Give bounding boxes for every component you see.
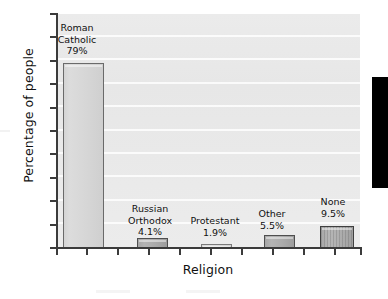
bar-label-line1: None [310,196,356,208]
x-tick-8 [272,249,274,255]
x-tick-7 [241,249,243,255]
y-tick-40 [50,153,56,155]
x-axis-title: Religion [56,262,360,277]
bar-label-line2: Orthodox [116,215,184,227]
bar-highlight [139,240,166,242]
bar-chart-figure: 100 90 80 70 60 50 40 30 20 10 0 Roman C… [0,0,388,299]
bar-none[interactable] [320,226,354,248]
bar-highlight [266,237,293,239]
bar-label-none: None 9.5% [310,196,356,219]
x-tick-9 [303,249,305,255]
bar-label-value: 9.5% [310,208,356,220]
scan-artifact-right [186,290,220,293]
scan-artifact-left [96,290,130,293]
bar-label-other: Other 5.5% [248,208,296,231]
y-tick-80 [50,60,56,62]
y-tick-30 [50,177,56,179]
x-tick-10 [334,249,336,255]
black-block-artifact [372,77,388,188]
y-tick-60 [50,107,56,109]
bar-label-protestant: Protestant 1.9% [182,215,248,238]
bar-roman-catholic[interactable] [63,63,104,248]
bar-label-line1: Other [248,208,296,220]
bar-label-roman-catholic: Roman Catholic 79% [44,22,110,57]
bar-label-value: 79% [44,45,110,57]
bar-label-line1: Protestant [182,215,248,227]
bar-label-value: 4.1% [116,226,184,238]
x-tick-4 [148,249,150,255]
bar-highlight [322,228,352,230]
bar-label-line1: Roman [44,22,110,34]
x-tick-1 [56,249,58,255]
bar-label-value: 1.9% [182,227,248,239]
y-tick-70 [50,83,56,85]
bar-label-line2: Catholic [44,34,110,46]
y-tick-10 [50,224,56,226]
bar-label-line1: Russian [116,203,184,215]
x-tick-5 [179,249,181,255]
x-tick-3 [117,249,119,255]
x-tick-6 [210,249,212,255]
y-tick-50 [50,130,56,132]
y-tick-100 [50,13,56,15]
bar-label-value: 5.5% [248,220,296,232]
x-tick-11 [360,249,362,255]
y-tick-20 [50,200,56,202]
x-axis-line [56,247,362,249]
y-axis-title: Percentage of people [21,36,36,196]
bar-label-russian-orthodox: Russian Orthodox 4.1% [116,203,184,238]
gridline-80 [56,58,360,60]
scan-artifact-edge [0,130,10,132]
bar-highlight [65,65,102,67]
x-tick-2 [86,249,88,255]
